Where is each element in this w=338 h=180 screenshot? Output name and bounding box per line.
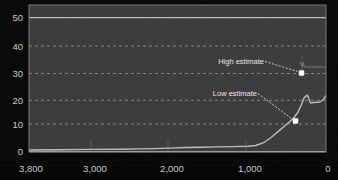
low-estimate-marker[interactable] [293, 118, 298, 123]
annotation-high-estimate: High estimate [218, 57, 264, 66]
plot-noise-overlay [29, 5, 326, 152]
line-chart: High estimate Low estimate 50 40 30 20 1… [0, 0, 338, 180]
x-tick-label-3000: 3,000 [83, 163, 107, 174]
y-tick-label-10: 10 [12, 119, 23, 130]
x-tick-label-3800: 3,800 [19, 163, 43, 174]
chart-container: High estimate Low estimate 50 40 30 20 1… [0, 0, 338, 180]
y-tick-label-0: 0 [18, 146, 23, 157]
high-estimate-marker[interactable] [299, 70, 304, 75]
y-tick-label-20: 20 [12, 95, 23, 106]
x-tick-label-2000: 2,000 [160, 163, 184, 174]
y-tick-label-40: 40 [12, 41, 23, 52]
y-tick-label-30: 30 [12, 68, 23, 79]
y-tick-label-50: 50 [12, 12, 23, 23]
x-tick-label-1000: 1,000 [238, 163, 262, 174]
x-tick-label-0: 0 [325, 163, 330, 174]
annotation-low-estimate: Low estimate [213, 89, 257, 98]
